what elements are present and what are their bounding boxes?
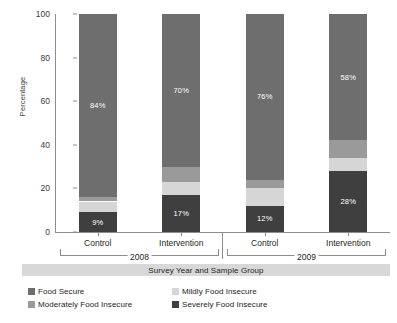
legend-label-1: Mildly Food Insecure — [182, 288, 257, 296]
x-axis-group-label-2: Control — [251, 238, 278, 248]
y-axis-tick-60: 60 — [22, 97, 50, 106]
bar-value-label-3-0: 28% — [329, 198, 367, 206]
bar-segment-0-2[interactable] — [79, 197, 117, 201]
legend-item-2[interactable]: Moderately Food Insecure — [28, 301, 172, 309]
y-axis-tick-20: 20 — [22, 184, 50, 193]
y-axis-tick-100: 100 — [22, 10, 50, 19]
legend-label-3: Severely Food Insecure — [182, 301, 268, 309]
bar-segment-0-1[interactable] — [79, 202, 117, 213]
bar-segment-3-1[interactable] — [329, 158, 367, 171]
legend-swatch-icon-0 — [28, 288, 35, 295]
legend-swatch-icon-1 — [172, 288, 179, 295]
legend-item-3[interactable]: Severely Food Insecure — [172, 301, 332, 309]
x-axis-tickmark-3 — [348, 232, 349, 236]
x-axis-tickmark-0 — [98, 232, 99, 236]
stacked-bar-chart: Percentage 020406080100 9%84%17%70%12%76… — [0, 0, 397, 323]
x-axis-group-label-1: Intervention — [159, 238, 203, 248]
plot-area: 9%84%17%70%12%76%28%58% — [56, 14, 390, 232]
stacked-bar-2[interactable]: 12%76% — [246, 14, 284, 232]
bar-segment-1-1[interactable] — [162, 182, 200, 195]
group-divider — [222, 233, 223, 259]
stacked-bar-1[interactable]: 17%70% — [162, 14, 200, 232]
bar-slot-3: 28%58% — [307, 14, 391, 232]
x-axis-group-label-0: Control — [84, 238, 111, 248]
legend-item-0[interactable]: Food Secure — [28, 288, 172, 296]
x-axis-group-label-3: Intervention — [326, 238, 370, 248]
bar-segment-2-2[interactable] — [246, 180, 284, 189]
bar-value-label-2-0: 12% — [246, 215, 284, 223]
legend-label-2: Moderately Food Insecure — [38, 301, 132, 309]
bar-slot-0: 9%84% — [56, 14, 140, 232]
stacked-bar-3[interactable]: 28%58% — [329, 14, 367, 232]
bar-value-label-1-3: 70% — [162, 87, 200, 95]
stacked-bar-0[interactable]: 9%84% — [79, 14, 117, 232]
chart-legend: Food SecureMildly Food InsecureModeratel… — [28, 285, 328, 311]
y-axis-tick-80: 80 — [22, 53, 50, 62]
bar-slot-2: 12%76% — [223, 14, 307, 232]
x-axis-tickmark-1 — [181, 232, 182, 236]
y-axis-tick-labels: 020406080100 — [22, 14, 50, 232]
legend-item-1[interactable]: Mildly Food Insecure — [172, 288, 332, 296]
x-axis-title: Survey Year and Sample Group — [148, 266, 263, 275]
legend-swatch-icon-2 — [28, 301, 35, 308]
bar-value-label-3-3: 58% — [329, 73, 367, 81]
bar-value-label-2-3: 76% — [246, 93, 284, 101]
bar-segment-3-2[interactable] — [329, 140, 367, 157]
bar-slot-1: 17%70% — [140, 14, 224, 232]
x-axis-year-label-1: 2009 — [294, 252, 319, 262]
bar-value-label-0-0: 9% — [79, 218, 117, 226]
bar-segment-1-2[interactable] — [162, 167, 200, 182]
y-axis-tick-40: 40 — [22, 141, 50, 150]
legend-swatch-icon-3 — [172, 301, 179, 308]
x-axis-year-label-0: 2008 — [127, 252, 152, 262]
legend-label-0: Food Secure — [38, 288, 84, 296]
x-axis-title-bar: Survey Year and Sample Group — [22, 264, 390, 276]
x-axis-tickmark-2 — [265, 232, 266, 236]
bar-segment-2-1[interactable] — [246, 188, 284, 205]
y-axis-tick-0: 0 — [22, 228, 50, 237]
bar-value-label-0-3: 84% — [79, 102, 117, 110]
bar-value-label-1-0: 17% — [162, 210, 200, 218]
